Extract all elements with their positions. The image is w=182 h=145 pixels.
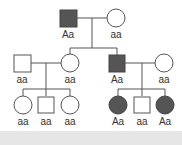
individual-I-1-affected-male [60, 10, 77, 27]
individual-III-3-female [61, 96, 79, 114]
individual-II-4-female [155, 54, 173, 72]
individual-III-2-male [38, 97, 54, 113]
genotype-III-4: Aa [106, 117, 130, 127]
individual-III-4-affected-female [109, 96, 127, 114]
genotype-III-1: aa [11, 117, 35, 127]
genotype-II-3: Aa [105, 75, 129, 85]
individual-III-1-female [14, 96, 32, 114]
genotype-III-2: aa [34, 117, 58, 127]
genotype-II-4: aa [152, 75, 176, 85]
individual-II-2-female [61, 54, 79, 72]
individual-I-2-female [107, 9, 125, 27]
genotype-III-3: aa [58, 117, 82, 127]
genotype-II-2: aa [58, 75, 82, 85]
bottom-band [0, 131, 182, 145]
genotype-III-5: aa [130, 117, 154, 127]
genotype-I-1: Aa [56, 30, 80, 40]
individual-II-3-affected-male [109, 55, 125, 72]
genotype-II-1: aa [10, 75, 34, 85]
individual-II-1-male [14, 55, 31, 72]
genotype-I-2: aa [104, 30, 128, 40]
individual-III-5-male [134, 97, 150, 113]
individual-III-6-affected-female [156, 96, 174, 114]
genotype-III-6: Aa [153, 117, 177, 127]
connector-lines [23, 18, 165, 96]
